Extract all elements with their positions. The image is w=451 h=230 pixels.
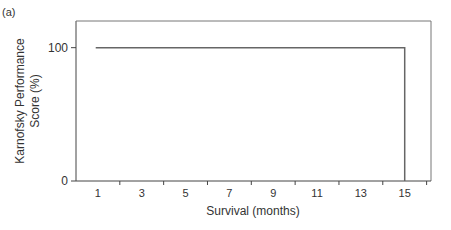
- x-tick-label: 1: [95, 187, 101, 199]
- y-ticks: 0100: [48, 41, 76, 188]
- y-axis-label-line1: Karnofsky Performance: [13, 38, 27, 164]
- x-axis-label: Survival (months): [206, 204, 299, 218]
- x-tick-label: 3: [139, 187, 145, 199]
- x-tick-label: 5: [183, 187, 189, 199]
- y-axis-label-line2: Score (%): [28, 74, 42, 127]
- panel-label: (a): [2, 6, 15, 18]
- y-tick-label: 100: [48, 41, 68, 55]
- x-ticks: 13579111315: [95, 181, 427, 199]
- chart: (a) 0100 13579111315 Karnofsky Performan…: [0, 0, 451, 230]
- data-series: [96, 48, 405, 181]
- kps-line: [96, 48, 405, 181]
- x-tick-label: 7: [226, 187, 232, 199]
- x-tick-label: 9: [270, 187, 276, 199]
- x-tick-label: 11: [311, 187, 322, 199]
- y-tick-label: 0: [61, 174, 68, 188]
- x-tick-label: 15: [399, 187, 411, 199]
- x-tick-label: 13: [355, 187, 367, 199]
